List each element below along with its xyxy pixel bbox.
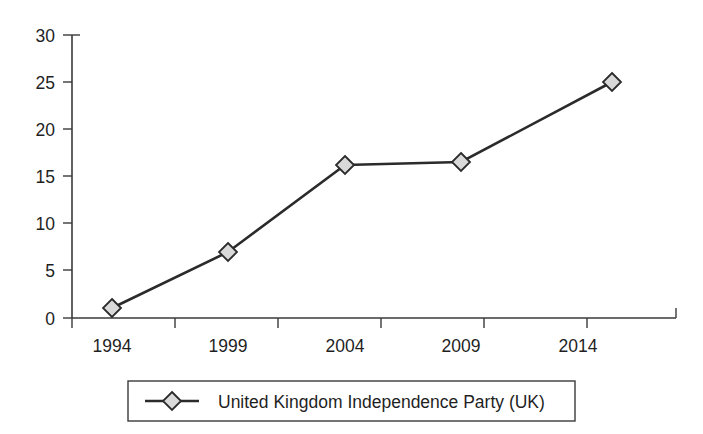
y-tick-label-10: 10 — [36, 214, 56, 234]
chart-background — [0, 0, 703, 434]
legend-entry-label: United Kingdom Independence Party (UK) — [218, 392, 545, 412]
line-chart: 30 25 20 15 10 5 0 1994 1999 2004 2009 2… — [0, 0, 703, 434]
chart-legend: United Kingdom Independence Party (UK) — [128, 381, 575, 421]
y-tick-label-5: 5 — [45, 261, 55, 281]
y-tick-label-20: 20 — [36, 120, 56, 140]
x-tick-label-1994: 1994 — [93, 336, 132, 356]
y-tick-label-30: 30 — [36, 26, 56, 46]
x-tick-label-2009: 2009 — [442, 336, 481, 356]
y-tick-label-25: 25 — [36, 73, 55, 93]
x-tick-label-1999: 1999 — [209, 336, 248, 356]
x-tick-label-2014: 2014 — [559, 336, 598, 356]
x-tick-label-2004: 2004 — [326, 336, 365, 356]
y-tick-label-0: 0 — [45, 309, 55, 329]
y-tick-label-15: 15 — [36, 167, 55, 187]
chart-canvas: 30 25 20 15 10 5 0 1994 1999 2004 2009 2… — [0, 0, 703, 434]
